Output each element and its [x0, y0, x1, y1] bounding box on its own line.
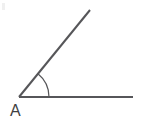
angle-diagram-canvas: A — [0, 0, 151, 125]
angle-figure-svg: A — [0, 0, 151, 125]
diagonal-ray — [19, 10, 90, 97]
angle-arc — [38, 74, 49, 97]
vertex-label-a: A — [10, 102, 21, 119]
